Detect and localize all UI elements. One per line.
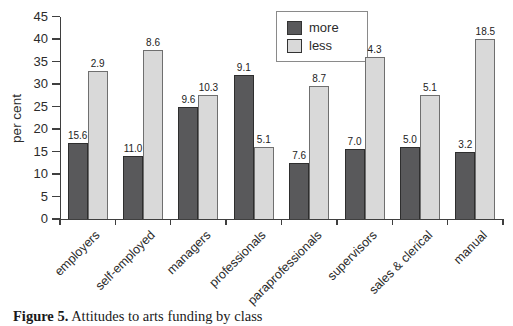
y-axis-tick-label: 40 xyxy=(0,32,48,46)
y-axis-tick-label: 25 xyxy=(0,100,48,114)
bar-less-sales-clerical xyxy=(420,95,440,219)
y-axis-tick-label: 15 xyxy=(0,145,48,159)
x-axis-tick xyxy=(336,219,337,225)
x-axis-tick xyxy=(115,219,116,225)
x-axis-label-manual: manual xyxy=(451,228,490,267)
bar-value-label: 10.3 xyxy=(199,82,218,93)
bar-less-professionals xyxy=(254,147,274,219)
bar-value-label: 2.9 xyxy=(91,58,105,69)
y-axis-tick-label: 20 xyxy=(0,122,48,136)
y-axis-tick-label: 0 xyxy=(0,212,48,226)
bar-more-self-employed xyxy=(123,156,143,219)
x-axis-tick xyxy=(59,219,60,225)
y-axis-tick xyxy=(52,38,60,39)
bar-value-label: 9.1 xyxy=(237,62,251,73)
y-axis-tick xyxy=(52,61,60,62)
bar-more-manual xyxy=(455,152,475,220)
legend-entry-more: more xyxy=(287,20,367,36)
bar-value-label: 15.6 xyxy=(68,130,87,141)
bar-value-label: 18.5 xyxy=(476,26,495,37)
y-axis-tick-label: 30 xyxy=(0,77,48,91)
figure-caption-number: Figure 5. xyxy=(13,308,68,324)
bar-less-self-employed xyxy=(143,50,163,219)
y-axis-tick xyxy=(52,106,60,107)
y-axis-tick-label: 35 xyxy=(0,55,48,69)
bar-less-manual xyxy=(475,39,495,219)
x-axis-tick xyxy=(502,219,503,225)
bar-value-label: 5.0 xyxy=(403,134,417,145)
x-axis-tick xyxy=(392,219,393,225)
x-axis-label-supervisors: supervisors xyxy=(324,228,379,283)
legend-swatch-more xyxy=(287,21,302,35)
bar-more-paraprofessionals xyxy=(289,163,309,219)
bar-value-label: 9.6 xyxy=(181,94,195,105)
bar-value-label: 7.0 xyxy=(348,136,362,147)
y-axis-tick xyxy=(52,83,60,84)
x-axis-tick xyxy=(225,219,226,225)
legend-swatch-less xyxy=(287,39,302,53)
legend-entry-less: less xyxy=(287,38,367,54)
x-axis-tick xyxy=(281,219,282,225)
bar-more-supervisors xyxy=(345,149,365,219)
y-axis-tick-label: 45 xyxy=(0,10,48,24)
bar-less-paraprofessionals xyxy=(309,86,329,219)
bar-less-managers xyxy=(198,95,218,219)
bar-value-label: 3.2 xyxy=(458,139,472,150)
bar-value-label: 5.1 xyxy=(257,134,271,145)
y-axis-tick xyxy=(52,151,60,152)
x-axis-tick xyxy=(447,219,448,225)
bar-value-label: 4.3 xyxy=(368,44,382,55)
bar-value-label: 5.1 xyxy=(423,82,437,93)
bar-less-supervisors xyxy=(365,57,385,219)
bar-more-sales-clerical xyxy=(400,147,420,219)
figure-caption: Figure 5. Attitudes to arts funding by c… xyxy=(13,308,262,325)
legend-label-less: less xyxy=(309,38,332,54)
bar-less-employers xyxy=(88,71,108,220)
bar-value-label: 8.7 xyxy=(312,73,326,84)
bar-value-label: 7.6 xyxy=(292,150,306,161)
x-axis-tick xyxy=(170,219,171,225)
bar-value-label: 8.6 xyxy=(146,37,160,48)
figure-caption-text: Attitudes to arts funding by class xyxy=(68,308,262,324)
y-axis-tick-label: 10 xyxy=(0,167,48,181)
bar-more-professionals xyxy=(234,75,254,219)
y-axis-tick xyxy=(52,16,60,17)
y-axis-tick xyxy=(52,173,60,174)
x-axis-label-managers: managers xyxy=(164,228,213,277)
y-axis-tick xyxy=(52,128,60,129)
x-axis-label-professionals: professionals xyxy=(207,228,269,290)
x-axis-label-employers: employers xyxy=(52,228,103,279)
legend-label-more: more xyxy=(309,20,339,36)
bar-value-label: 11.0 xyxy=(124,143,143,154)
y-axis-line xyxy=(60,17,62,220)
y-axis-tick-label: 5 xyxy=(0,190,48,204)
bar-more-employers xyxy=(68,143,88,220)
bar-chart: per cent more less Figure 5. Attitudes t… xyxy=(0,0,513,326)
y-axis-tick xyxy=(52,196,60,197)
legend: more less xyxy=(276,11,368,62)
x-axis-label-self-employed: self-employed xyxy=(93,228,158,293)
bar-more-managers xyxy=(178,107,198,220)
